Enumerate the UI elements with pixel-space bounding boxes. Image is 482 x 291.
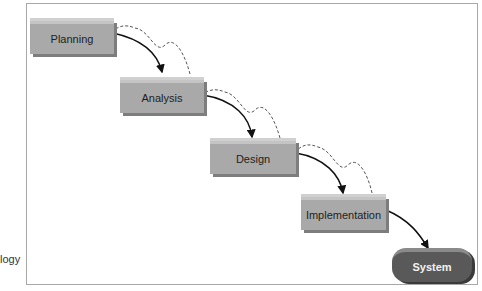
output-label: System bbox=[412, 261, 451, 273]
stage-label: Analysis bbox=[142, 92, 183, 104]
output-system: System bbox=[392, 248, 472, 282]
stage-label: Implementation bbox=[306, 209, 381, 221]
stage-design: Design bbox=[210, 140, 296, 174]
stage-label: Design bbox=[236, 153, 270, 165]
stage-analysis: Analysis bbox=[120, 79, 204, 113]
stage-label: Planning bbox=[51, 33, 94, 45]
stage-planning: Planning bbox=[30, 20, 114, 54]
stage-implementation: Implementation bbox=[301, 196, 386, 230]
